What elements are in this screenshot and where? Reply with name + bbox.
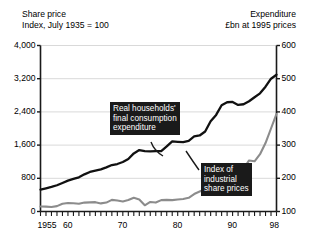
right-tick-label: 300 <box>282 140 296 149</box>
callout-share-price-line3: share prices <box>204 184 249 194</box>
x-tick-label: 90 <box>228 220 238 230</box>
left-tick-label: 0 <box>31 207 36 216</box>
callout-share-price-line1: Index of <box>204 165 249 175</box>
chart-figure: Share price Index, July 1935 = 100 Expen… <box>0 0 310 241</box>
callout-expenditure: Real households' final consumption expen… <box>110 102 180 135</box>
x-tick-label: 70 <box>118 220 128 230</box>
x-tick-label: 1955 <box>38 220 57 230</box>
callout-share-price: Index of industrial share prices <box>201 163 252 196</box>
right-tick-label: 500 <box>282 74 296 83</box>
x-tick-label: 98 <box>270 220 280 230</box>
left-tick-label: 4,000 <box>14 41 36 50</box>
expenditure-callout-leader <box>151 142 163 156</box>
left-tick-label: 1,600 <box>14 140 36 149</box>
x-tick-label: 80 <box>173 220 183 230</box>
left-tick-label: 3,200 <box>14 74 36 83</box>
share-price-callout-leader <box>186 151 199 170</box>
callout-expenditure-line1: Real households' <box>113 104 177 114</box>
right-tick-label: 200 <box>282 173 296 182</box>
x-tick-label: 60 <box>63 220 73 230</box>
right-tick-label: 600 <box>282 41 296 50</box>
right-tick-label: 100 <box>282 207 296 216</box>
callout-expenditure-line3: expenditure <box>113 123 177 133</box>
left-tick-label: 800 <box>21 173 35 182</box>
callout-share-price-line2: industrial <box>204 175 249 185</box>
left-tick-label: 2,400 <box>14 107 36 116</box>
right-tick-label: 400 <box>282 107 296 116</box>
callout-expenditure-line2: final consumption <box>113 114 177 124</box>
